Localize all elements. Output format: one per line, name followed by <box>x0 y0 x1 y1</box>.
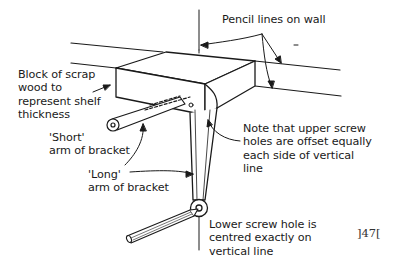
pencil-lines-label: Pencil lines on wall <box>222 13 326 26</box>
lower-hole-note: Lower screw hole is centred exactly on v… <box>209 218 317 258</box>
long-arm-label: 'Long' arm of bracket <box>88 168 169 195</box>
block-label: Block of scrap wood to represent shelf t… <box>18 68 101 122</box>
page-number: ]47[ <box>357 226 381 240</box>
short-arm-label: 'Short' arm of bracket <box>49 131 130 158</box>
pencil <box>126 209 198 243</box>
upper-holes-note: Note that upper screw holes are offset e… <box>243 122 372 176</box>
scrap-wood-block <box>116 52 255 115</box>
